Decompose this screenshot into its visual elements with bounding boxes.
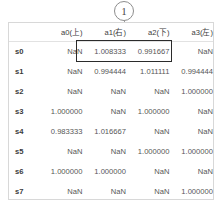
table-header: a0(上) a1(右) a2(下) a3(左) [9, 23, 213, 41]
cell-value: NaN [39, 81, 83, 101]
table-header-row: a0(上) a1(右) a2(下) a3(左) [9, 23, 213, 41]
table-row: s3 1.000000 NaN 1.000000 NaN [9, 101, 213, 121]
cell-value: 1.000000 [170, 141, 214, 161]
column-header-a2: a2(下) [126, 23, 170, 41]
cell-value: 0.983333 [39, 121, 83, 141]
cell-value: NaN [126, 81, 170, 101]
column-header-a3: a3(左) [170, 23, 214, 41]
table-row: s0 NaN 1.008333 0.991667 NaN [9, 41, 213, 61]
cell-value: NaN [39, 41, 83, 61]
row-label: s1 [9, 61, 39, 81]
column-header-rowlabel [9, 23, 39, 41]
column-header-a0: a0(上) [39, 23, 83, 41]
cell-value: 1.000000 [170, 81, 214, 101]
cell-value: NaN [83, 141, 127, 161]
cell-value: NaN [39, 141, 83, 161]
circled-number-callout-icon: 1 [114, 1, 134, 21]
row-label: s2 [9, 81, 39, 101]
cell-value: NaN [170, 101, 214, 121]
row-label: s6 [9, 161, 39, 181]
cell-value: NaN [39, 61, 83, 81]
column-header-a1: a1(右) [83, 23, 127, 41]
cell-value: NaN [83, 181, 127, 201]
cell-value: NaN [170, 41, 214, 61]
cell-value: NaN [170, 121, 214, 141]
data-table: a0(上) a1(右) a2(下) a3(左) s0 NaN 1.008333 … [9, 23, 213, 201]
cell-value: 1.000000 [170, 181, 214, 201]
cell-value: NaN [39, 181, 83, 201]
cell-value: NaN [126, 161, 170, 181]
cell-value: NaN [126, 181, 170, 201]
cell-value: 1.008333 [83, 41, 127, 61]
table-row: s1 NaN 0.994444 1.011111 0.994444 [9, 61, 213, 81]
row-label: s5 [9, 141, 39, 161]
cell-value: 1.000000 [126, 101, 170, 121]
row-label: s0 [9, 41, 39, 61]
table-row: s4 0.983333 1.016667 NaN NaN [9, 121, 213, 141]
table-row: s7 NaN NaN NaN 1.000000 [9, 181, 213, 201]
table-body: s0 NaN 1.008333 0.991667 NaN s1 NaN 0.99… [9, 41, 213, 201]
cell-value: 0.994444 [83, 61, 127, 81]
cell-value: 1.000000 [126, 141, 170, 161]
cell-value: NaN [126, 121, 170, 141]
cell-value: 0.991667 [126, 41, 170, 61]
callout-marker: 1 [114, 1, 136, 23]
cell-value: NaN [83, 101, 127, 121]
cell-value: NaN [170, 161, 214, 181]
cell-value: 1.000000 [39, 101, 83, 121]
cell-value: 1.000000 [83, 161, 127, 181]
table-row: s2 NaN NaN NaN 1.000000 [9, 81, 213, 101]
row-label: s4 [9, 121, 39, 141]
cell-value: 1.011111 [126, 61, 170, 81]
row-label: s7 [9, 181, 39, 201]
cell-value: 0.994444 [170, 61, 214, 81]
table-row: s6 1.000000 1.000000 NaN NaN [9, 161, 213, 181]
cell-value: 1.000000 [39, 161, 83, 181]
table-row: s5 NaN NaN 1.000000 1.000000 [9, 141, 213, 161]
data-table-frame: a0(上) a1(右) a2(下) a3(左) s0 NaN 1.008333 … [8, 22, 214, 200]
cell-value: 1.016667 [83, 121, 127, 141]
row-label: s3 [9, 101, 39, 121]
cell-value: NaN [83, 81, 127, 101]
